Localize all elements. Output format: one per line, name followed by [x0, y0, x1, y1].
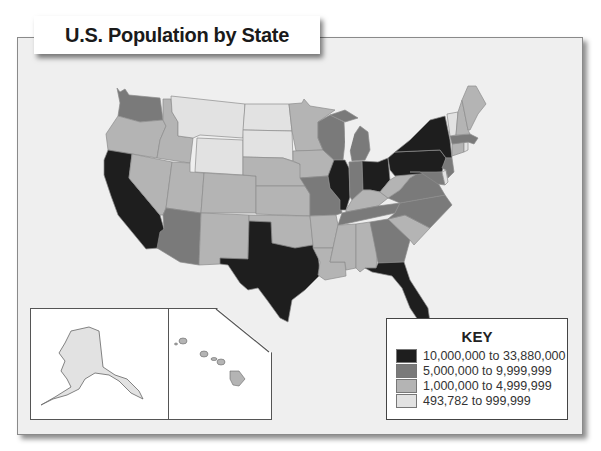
state-rhode-island[interactable] — [464, 142, 468, 152]
key-row-tier2: 5,000,000 to 9,999,999 — [396, 363, 567, 378]
key-label: 1,000,000 to 4,999,999 — [423, 379, 552, 393]
key-title: KEY — [387, 328, 567, 345]
state-arizona[interactable] — [157, 208, 201, 265]
swatch-tier3 — [396, 379, 417, 393]
state-colorado[interactable] — [201, 173, 256, 213]
state-new-mexico[interactable] — [199, 213, 249, 265]
swatch-tier1 — [396, 349, 417, 363]
alaska-inset — [30, 308, 170, 420]
state-kansas[interactable] — [256, 186, 310, 216]
state-north-dakota[interactable] — [243, 104, 292, 131]
swatch-tier2 — [396, 364, 417, 378]
key-row-tier1: 10,000,000 to 33,880,000 — [396, 348, 567, 363]
key-row-tier4: 493,782 to 999,999 — [396, 393, 567, 408]
alaska-shape[interactable] — [31, 309, 169, 419]
key-row-tier3: 1,000,000 to 4,999,999 — [396, 378, 567, 393]
key-label: 493,782 to 999,999 — [423, 394, 531, 408]
key-label: 5,000,000 to 9,999,999 — [423, 364, 552, 378]
key-label: 10,000,000 to 33,880,000 — [423, 349, 566, 363]
title-box: U.S. Population by State — [34, 16, 320, 54]
state-florida[interactable] — [365, 262, 430, 326]
state-montana[interactable] — [171, 96, 245, 138]
swatch-tier4 — [396, 394, 417, 408]
state-south-dakota[interactable] — [243, 130, 293, 161]
state-wyoming[interactable] — [195, 138, 243, 175]
map-key: KEY 10,000,000 to 33,880,000 5,000,000 t… — [386, 318, 568, 420]
map-title: U.S. Population by State — [65, 24, 289, 47]
state-washington[interactable] — [117, 88, 163, 122]
